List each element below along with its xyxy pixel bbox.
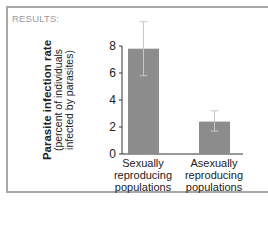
x-label-line: populations [103, 181, 183, 193]
x-category-label-sexual: Sexually reproducing populations [103, 157, 183, 193]
y-tick-label: 2 [109, 120, 116, 134]
x-category-label-asexual: Asexually reproducing populations [174, 157, 254, 193]
y-tick-label: 4 [109, 93, 116, 107]
y-tick-label: 6 [109, 66, 116, 80]
x-label-line: reproducing [103, 169, 183, 181]
x-label-line: Asexually [174, 157, 254, 169]
x-label-line: populations [174, 181, 254, 193]
x-label-line: Sexually [103, 157, 183, 169]
x-label-line: reproducing [174, 169, 254, 181]
y-tick-label: 8 [109, 39, 116, 53]
